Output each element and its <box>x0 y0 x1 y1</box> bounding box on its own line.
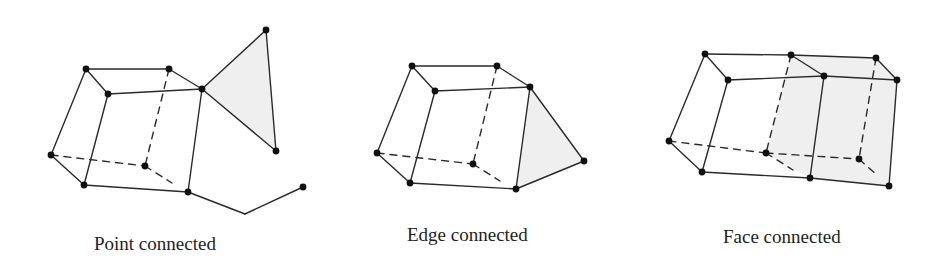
hidden-edge <box>473 66 497 164</box>
hidden-edge <box>669 141 766 153</box>
edge <box>188 192 245 214</box>
edge <box>435 87 530 91</box>
vertex-dot <box>48 152 55 159</box>
edge <box>245 187 303 214</box>
caption-face-connected: Face connected <box>723 226 841 247</box>
shaded-region <box>202 30 276 151</box>
hidden-edges <box>51 69 172 183</box>
caption-edge-connected: Edge connected <box>407 224 528 245</box>
panel-edge-connected: Edge connected <box>374 63 588 245</box>
hidden-edge <box>51 155 145 166</box>
edge <box>51 155 84 185</box>
vertex-dot <box>886 183 893 190</box>
vertex-dot <box>702 51 709 58</box>
shaded-triangle <box>202 30 276 151</box>
vertex-dot <box>470 161 477 168</box>
edge <box>108 89 202 94</box>
vertex-dot <box>166 66 173 73</box>
panel-face-connected: Face connected <box>666 51 901 247</box>
hidden-edge <box>145 69 169 166</box>
hidden-edge <box>145 166 172 183</box>
vertex-dot <box>894 77 901 84</box>
vertex-dot <box>494 63 501 70</box>
vertex-dot <box>273 148 280 155</box>
edge <box>410 183 516 189</box>
vertex-dot <box>374 150 381 157</box>
edge <box>86 69 108 94</box>
edge <box>169 69 202 89</box>
edge <box>377 66 412 153</box>
vertex-dot <box>142 163 149 170</box>
edge <box>497 66 530 87</box>
vertex-dot <box>725 77 732 84</box>
shaded-region <box>516 87 584 189</box>
vertex-dot <box>432 88 439 95</box>
edge <box>669 54 705 141</box>
edge <box>669 141 702 172</box>
hidden-edge <box>473 164 500 181</box>
hidden-edges <box>377 66 500 181</box>
vertex-dot <box>81 182 88 189</box>
vertex-dot <box>856 156 863 163</box>
edge <box>705 54 791 55</box>
vertex-dot <box>763 150 770 157</box>
edge <box>188 89 202 192</box>
edge <box>51 69 86 155</box>
edge <box>410 91 435 183</box>
vertex-dot <box>105 91 112 98</box>
vertex-dot <box>199 86 206 93</box>
vertex-dot <box>699 169 706 176</box>
edge <box>84 94 108 185</box>
edge <box>702 80 728 172</box>
vertex-dot <box>821 73 828 80</box>
vertex-dot <box>409 63 416 70</box>
vertex-dot <box>873 55 880 62</box>
caption-point-connected: Point connected <box>94 233 216 254</box>
edge <box>705 54 728 80</box>
edge <box>377 153 410 183</box>
vertex-dot <box>527 84 534 91</box>
shaded-wedge <box>516 87 584 189</box>
vertex-dot <box>581 158 588 165</box>
hidden-edge <box>377 153 473 164</box>
vertex-dot <box>185 189 192 196</box>
edge <box>84 185 188 192</box>
vertex-dot <box>83 66 90 73</box>
panel-point-connected: Point connected <box>48 27 307 254</box>
vertex-dot <box>807 175 814 182</box>
vertex-dot <box>788 52 795 59</box>
edge <box>702 172 810 178</box>
vertex-dot <box>666 138 673 145</box>
vertex-dot <box>300 184 307 191</box>
vertex-dot <box>407 180 414 187</box>
edge <box>412 66 435 91</box>
connectivity-figure: Point connected Edge connected Face conn… <box>0 0 935 275</box>
vertex-dot <box>513 186 520 193</box>
vertex-dot <box>263 27 270 34</box>
